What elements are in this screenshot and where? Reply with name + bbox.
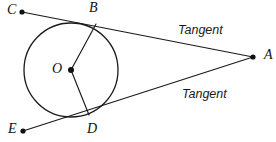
point-label-b: B bbox=[89, 0, 98, 15]
point-label-e: E bbox=[7, 121, 17, 136]
point-dot-e bbox=[20, 128, 25, 133]
tangent-label-upper: Tangent bbox=[178, 23, 223, 37]
radius-segment-ob bbox=[71, 24, 96, 70]
point-label-o: O bbox=[52, 61, 62, 76]
point-dot-c bbox=[19, 9, 24, 14]
point-dot-o bbox=[68, 67, 74, 73]
tangent-label-lower: Tangent bbox=[182, 87, 227, 101]
geometry-diagram: C B A O D E Tangent Tangent bbox=[0, 0, 276, 142]
point-label-c: C bbox=[7, 2, 17, 17]
point-label-a: A bbox=[263, 47, 273, 62]
point-dot-a bbox=[250, 54, 255, 59]
point-label-d: D bbox=[86, 121, 97, 136]
radius-segment-od bbox=[71, 70, 89, 115]
geometry-canvas: C B A O D E Tangent Tangent bbox=[0, 0, 276, 142]
